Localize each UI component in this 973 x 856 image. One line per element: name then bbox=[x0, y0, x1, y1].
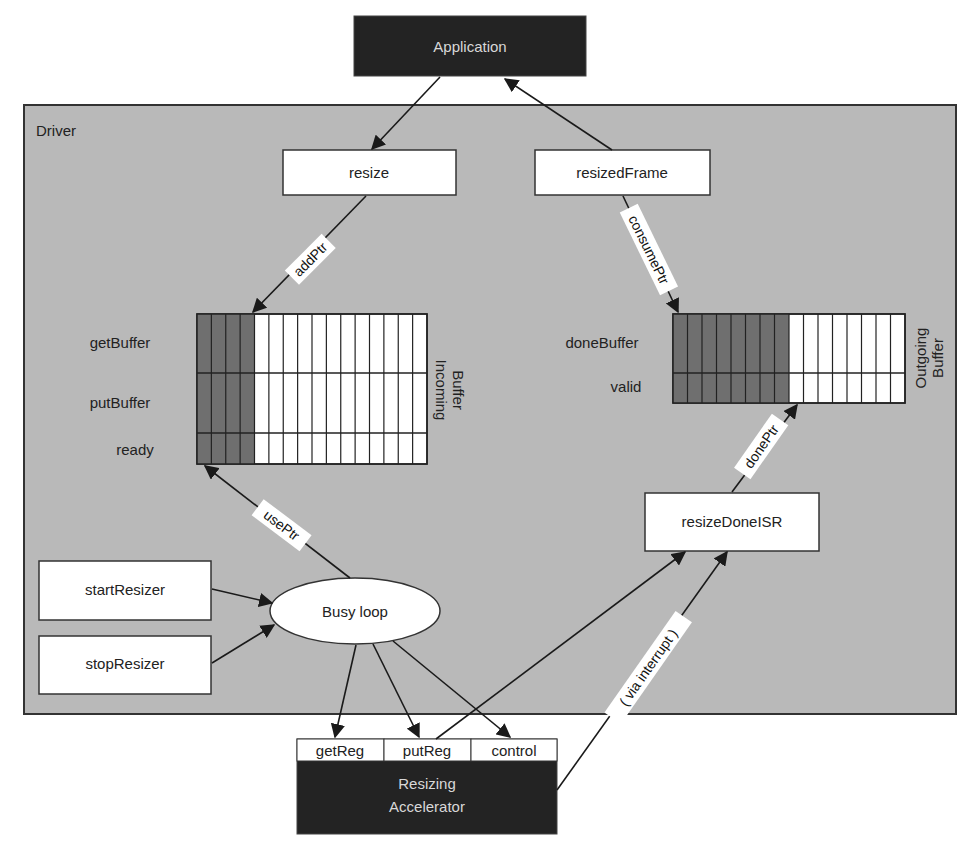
incoming-buffer-title-2: Buffer bbox=[450, 370, 467, 410]
resize-done-isr-node[interactable]: resizeDoneISR bbox=[645, 493, 819, 551]
driver-container: Driver bbox=[24, 105, 956, 714]
stop-resizer-node[interactable]: stopResizer bbox=[39, 636, 211, 694]
outgoing-buffer-title-2: Buffer bbox=[929, 338, 946, 378]
register-control-label: control bbox=[491, 742, 536, 759]
resized-frame-label: resizedFrame bbox=[576, 164, 668, 181]
resized-frame-node[interactable]: resizedFrame bbox=[535, 150, 710, 195]
row-label-valid: valid bbox=[611, 378, 642, 395]
outgoing-buffer-title-1: Outgoing bbox=[912, 328, 929, 389]
row-label-getbuffer: getBuffer bbox=[90, 334, 151, 351]
busy-loop-node[interactable]: Busy loop bbox=[270, 578, 440, 644]
incoming-buffer-title-1: Incoming bbox=[433, 360, 450, 421]
start-resizer-label: startResizer bbox=[85, 581, 165, 598]
application-node[interactable]: Application bbox=[354, 16, 586, 76]
row-label-donebuffer: doneBuffer bbox=[565, 334, 638, 351]
accelerator-label-line2: Accelerator bbox=[389, 798, 465, 815]
start-resizer-node[interactable]: startResizer bbox=[39, 561, 211, 620]
application-label: Application bbox=[433, 38, 506, 55]
accelerator-label-line1: Resizing bbox=[398, 775, 456, 792]
architecture-diagram: Driver Application resize resizedFrame g… bbox=[0, 0, 973, 856]
resize-label: resize bbox=[349, 164, 389, 181]
resize-node[interactable]: resize bbox=[283, 150, 456, 195]
driver-label: Driver bbox=[36, 122, 76, 139]
stop-resizer-label: stopResizer bbox=[85, 655, 164, 672]
register-getreg-label: getReg bbox=[316, 742, 364, 759]
resize-done-isr-label: resizeDoneISR bbox=[682, 513, 783, 530]
register-putreg-label: putReg bbox=[403, 742, 451, 759]
row-label-ready: ready bbox=[116, 441, 154, 458]
busy-loop-label: Busy loop bbox=[322, 603, 388, 620]
row-label-putbuffer: putBuffer bbox=[90, 394, 151, 411]
resizing-accelerator-node[interactable]: getReg putReg control Resizing Accelerat… bbox=[297, 739, 557, 834]
